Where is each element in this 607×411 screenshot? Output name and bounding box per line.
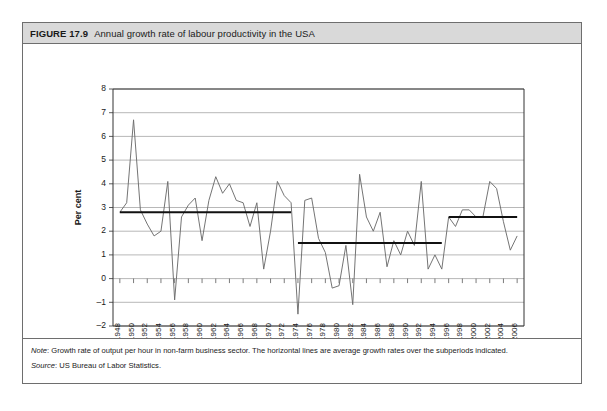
x-tick-label: 1964 bbox=[222, 323, 231, 339]
x-tick-label: 1978 bbox=[318, 323, 327, 339]
note-label: Note bbox=[31, 346, 47, 355]
note-text: : Growth rate of output per hour in non-… bbox=[47, 346, 508, 355]
x-tick-label: 1992 bbox=[414, 323, 423, 339]
y-tick-label: 4 bbox=[101, 178, 106, 188]
x-tick-label: 1982 bbox=[346, 323, 355, 339]
y-tick-label: 5 bbox=[101, 154, 106, 164]
x-tick-label: 2000 bbox=[469, 323, 478, 339]
x-tick-label: 1956 bbox=[168, 323, 177, 339]
y-tick-label: 8 bbox=[101, 83, 106, 93]
x-tick-label: 2004 bbox=[496, 323, 505, 339]
figure-title: Annual growth rate of labour productivit… bbox=[94, 28, 315, 39]
y-tick-label: –2 bbox=[97, 320, 107, 330]
figure-number: FIGURE 17.9 bbox=[30, 28, 88, 39]
x-tick-label: 1998 bbox=[455, 323, 464, 339]
y-axis-title: Per cent bbox=[73, 190, 83, 226]
x-tick-label: 1984 bbox=[359, 323, 368, 339]
x-tick-label: 1976 bbox=[305, 323, 314, 339]
y-tick-label: 0 bbox=[101, 273, 106, 283]
x-tick-label: 1962 bbox=[209, 323, 218, 339]
x-tick-label: 1954 bbox=[154, 323, 163, 339]
x-tick-label: 1960 bbox=[195, 323, 204, 339]
x-tick-label: 2002 bbox=[483, 323, 492, 339]
source-text: : US Bureau of Labor Statistics. bbox=[55, 361, 161, 370]
source-line: Source: US Bureau of Labor Statistics. bbox=[31, 361, 573, 371]
y-tick-label: 1 bbox=[101, 249, 106, 259]
x-tick-label: 1970 bbox=[264, 323, 273, 339]
x-tick-label: 1968 bbox=[250, 323, 259, 339]
figure-notes: Note: Growth rate of output per hour in … bbox=[23, 338, 581, 383]
x-tick-label: 1958 bbox=[181, 323, 190, 339]
y-tick-label: 7 bbox=[101, 107, 106, 117]
y-tick-label: 2 bbox=[101, 225, 106, 235]
figure-header: FIGURE 17.9 Annual growth rate of labour… bbox=[23, 23, 581, 44]
x-tick-label: 1996 bbox=[442, 323, 451, 339]
y-tick-label: 3 bbox=[101, 202, 106, 212]
x-tick-label: 1972 bbox=[277, 323, 286, 339]
x-tick-label: 2006 bbox=[510, 323, 519, 339]
note-line: Note: Growth rate of output per hour in … bbox=[31, 346, 573, 356]
x-tick-label: 1986 bbox=[373, 323, 382, 339]
x-tick-label: 1990 bbox=[401, 323, 410, 339]
source-label: Source bbox=[31, 361, 55, 370]
x-tick-label: 1980 bbox=[332, 323, 341, 339]
y-tick-label: –1 bbox=[97, 297, 107, 307]
x-tick-label: 1966 bbox=[236, 323, 245, 339]
x-tick-label: 1952 bbox=[140, 323, 149, 339]
x-tick-label: 1994 bbox=[428, 323, 437, 339]
x-tick-label: 1988 bbox=[387, 323, 396, 339]
chart-plot-area: –2–1012345678194819501952195419561958196… bbox=[23, 44, 581, 339]
x-tick-label: 1974 bbox=[291, 323, 300, 339]
x-tick-label: 1950 bbox=[127, 323, 136, 339]
figure-card: FIGURE 17.9 Annual growth rate of labour… bbox=[22, 22, 582, 384]
y-tick-label: 6 bbox=[101, 131, 106, 141]
line-chart: –2–1012345678194819501952195419561958196… bbox=[23, 44, 581, 339]
x-tick-label: 1948 bbox=[113, 323, 122, 339]
